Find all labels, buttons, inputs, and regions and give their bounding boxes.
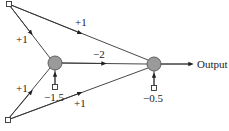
- hidden-neuron: [48, 56, 62, 70]
- bias-node-hidden: [53, 85, 58, 90]
- weight-label-top-hidden: +1: [16, 33, 28, 45]
- neural-network-diagram: +1 +1 −2 +1 −1.5 +1 −0.5 Output: [0, 0, 229, 131]
- weight-label-bottom-hidden: +1: [16, 82, 28, 94]
- weight-label-bottom-output: +1: [74, 97, 86, 109]
- edge-hidden-to-output-arrow: [62, 63, 104, 64]
- edge-top-to-hidden-arrow: [10, 6, 31, 33]
- bias-label-hidden: −1.5: [44, 91, 64, 103]
- output-label: Output: [197, 58, 228, 70]
- edges: [9, 5, 191, 119]
- weight-label-hidden-output: −2: [93, 48, 105, 60]
- edge-top-to-output-arrow: [11, 5, 80, 33]
- input-node-top: [7, 2, 12, 7]
- bias-node-output: [152, 86, 157, 91]
- weight-label-top-output: +1: [75, 16, 87, 28]
- bias-label-output: −0.5: [143, 92, 163, 104]
- output-neuron: [147, 57, 161, 71]
- edge-bottom-to-hidden-arrow: [9, 92, 31, 118]
- input-node-bottom: [6, 118, 11, 123]
